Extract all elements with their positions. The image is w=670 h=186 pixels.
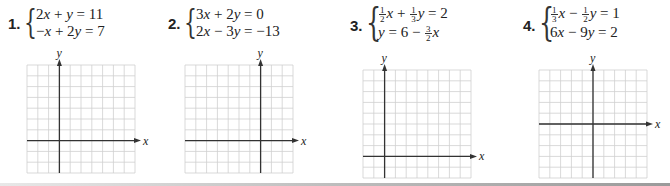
x-axis-label: x — [654, 117, 661, 131]
coordinate-grid-4: xy — [0, 0, 670, 186]
y-axis-arrow-icon — [591, 64, 596, 71]
y-axis-label: y — [589, 51, 596, 65]
x-axis-arrow-icon — [646, 122, 653, 127]
page-edge — [0, 183, 670, 186]
